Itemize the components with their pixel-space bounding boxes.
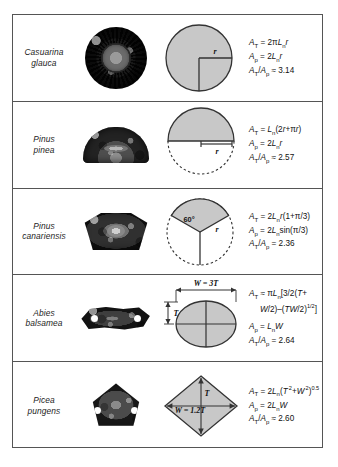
species-genus: Abies (33, 308, 54, 318)
photomicrograph-cell (75, 275, 157, 361)
equation-projected-area: Ap = 2Lnr (249, 51, 322, 65)
species-name: Casuarina glauca (24, 47, 63, 69)
equation-ratio: AT/Ap ≈ 2.57 (249, 152, 322, 166)
table-row: Picea pungens T W = 1.2T AT = 2Ln (13, 362, 322, 449)
equation-total-area: AT = 2Lnr(1+π/3) (249, 211, 322, 225)
cross-section-photo-kite (87, 383, 145, 429)
equation-projected-area: Ap = 2Lnsin(π/3) (249, 225, 322, 239)
equation-total-area-line1: AT ≈ πLn[3/2(T+ (249, 288, 322, 302)
texture-overlay (85, 27, 147, 89)
species-name-cell: Casuarina glauca (13, 15, 75, 101)
cross-section-photo-flat (80, 305, 152, 332)
angle-label: 60° (183, 215, 194, 224)
species-genus: Pinus (33, 134, 54, 144)
figure-table: Casuarina glauca r AT = 2πLnr Ap = 2Lnr … (12, 14, 323, 448)
radius-label: r (215, 147, 219, 156)
half-circle-model-diagram: r (159, 107, 243, 183)
table-row: Pinus pinea r AT = Ln(2r+πr) Ap = 2Lnr A… (13, 102, 322, 189)
species-genus: Pinus (33, 221, 54, 231)
width-extension-lines (176, 290, 236, 302)
sector-model-diagram: 60° r (159, 192, 243, 270)
photomicrograph-cell (75, 15, 157, 101)
species-name-cell: Pinus canariensis (13, 189, 75, 275)
equations-cell: AT = 2πLnr Ap = 2Lnr AT/Ap ≈ 3.14 (245, 15, 322, 101)
equation-projected-area: Ap = 2LnW (249, 400, 322, 414)
equations-cell: AT = Ln(2r+πr) Ap = 2Lnr AT/Ap ≈ 2.57 (245, 102, 322, 188)
equation-total-area: AT = 2Ln(T 2+W 2)0.5 (249, 384, 322, 399)
equations-cell: AT = 2Ln(T 2+W 2)0.5 Ap = 2LnW AT/Ap ≈ 2… (245, 362, 322, 449)
equation-total-area: AT = 2πLnr (249, 37, 322, 51)
equation-total-area: AT = Ln(2r+πr) (249, 124, 322, 138)
geometric-model-cell: r (157, 15, 245, 101)
equation-ratio: AT/Ap = 2.36 (249, 238, 322, 252)
species-genus: Picea (33, 395, 54, 405)
species-epithet: glauca (31, 58, 56, 68)
equation-projected-area: Ap = 2Lnr (249, 138, 322, 152)
equations-cell: AT ≈ πLn[3/2(T+ W/2)–(TW/2)1/2] Ap = LnW… (245, 275, 322, 361)
table-row: Pinus canariensis 60° r AT = 2Lnr(1+π/3)… (13, 189, 322, 276)
equation-total-area-line2: W/2)–(TW/2)1/2] (249, 302, 322, 316)
species-epithet: pungens (28, 406, 61, 416)
photomicrograph-cell (75, 102, 157, 188)
species-name-cell: Pinus pinea (13, 102, 75, 188)
equation-projected-area: Ap = LnW (249, 321, 322, 335)
cross-section-photo-circular (85, 27, 147, 89)
ellipse-model-diagram: W = 3T T (158, 278, 244, 358)
texture-overlay (87, 383, 145, 429)
species-epithet: pinea (33, 145, 54, 155)
photomicrograph-cell (75, 362, 157, 449)
texture-overlay (82, 211, 150, 251)
ratio-value: 2.57 (278, 153, 294, 162)
cross-section-photo-dome (83, 127, 149, 163)
ratio-value: 2.36 (279, 239, 295, 248)
species-epithet: balsamea (25, 318, 62, 328)
texture-overlay (83, 127, 149, 163)
radius-label: r (215, 225, 219, 234)
species-name-cell: Picea pungens (13, 362, 75, 449)
species-name-cell: Abies balsamea (13, 275, 75, 361)
species-epithet: canariensis (22, 231, 65, 241)
species-genus: Casuarina (24, 47, 63, 57)
resin-duct-right (131, 407, 138, 414)
species-name: Picea pungens (28, 395, 61, 417)
table-row: Abies balsamea W = 3T T (13, 275, 322, 362)
cross-section-photo-fan (82, 211, 150, 251)
ratio-value: 3.14 (278, 66, 294, 75)
rhombus-model-diagram: T W = 1.2T (158, 368, 244, 444)
geometric-model-cell: W = 3T T (157, 275, 245, 361)
geometric-model-cell: 60° r (157, 189, 245, 275)
resin-duct-left (94, 407, 101, 414)
width-label: W = 1.2T (175, 406, 207, 415)
equation-ratio: AT/Ap = 2.64 (249, 335, 322, 349)
equations-cell: AT = 2Lnr(1+π/3) Ap = 2Lnsin(π/3) AT/Ap … (245, 189, 322, 275)
half-circle-shape (168, 108, 234, 141)
resin-duct-left (91, 315, 98, 322)
sector-shape (171, 199, 228, 232)
width-label: W = 3T (194, 279, 220, 288)
equation-ratio: AT/Ap ≈ 2.60 (249, 413, 322, 427)
resin-duct-right (134, 315, 141, 322)
ratio-value: 2.64 (279, 336, 295, 345)
circle-model-diagram: r (159, 20, 243, 96)
species-name: Abies balsamea (25, 308, 62, 330)
table-row: Casuarina glauca r AT = 2πLnr Ap = 2Lnr … (13, 15, 322, 102)
geometric-model-cell: T W = 1.2T (157, 362, 245, 449)
species-name: Pinus pinea (33, 134, 54, 156)
geometric-model-cell: r (157, 102, 245, 188)
equation-ratio: AT/Ap ≈ 3.14 (249, 65, 322, 79)
ratio-value: 2.60 (278, 414, 294, 423)
species-name: Pinus canariensis (22, 221, 65, 243)
photomicrograph-cell (75, 189, 157, 275)
